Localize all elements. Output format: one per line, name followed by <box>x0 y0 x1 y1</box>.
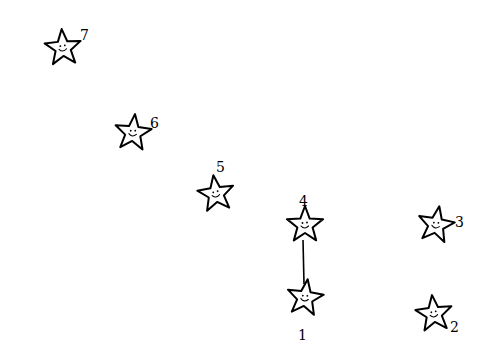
star-dots: 1234567 <box>44 27 464 343</box>
dot-star-4[interactable]: 4 <box>287 193 323 240</box>
smiling-star-icon <box>414 293 454 331</box>
smiling-star-icon <box>416 203 458 243</box>
puzzle-canvas[interactable]: 1234567 <box>0 0 498 359</box>
dot-star-3[interactable]: 3 <box>416 203 464 243</box>
smiling-star-icon <box>44 28 82 65</box>
dot-number-label: 1 <box>298 327 307 343</box>
drawn-lines <box>303 240 304 284</box>
dot-number-label: 4 <box>299 193 308 209</box>
dot-number-label: 6 <box>150 115 159 131</box>
smiling-star-icon <box>113 112 153 150</box>
connecting-line-4-1 <box>303 240 304 284</box>
dot-star-6[interactable]: 6 <box>113 112 159 150</box>
dot-number-label: 2 <box>450 319 459 335</box>
smiling-star-icon <box>287 206 323 240</box>
dot-star-1[interactable]: 1 <box>285 277 326 343</box>
dot-star-5[interactable]: 5 <box>195 159 236 212</box>
smiling-star-icon <box>285 277 326 316</box>
dot-star-2[interactable]: 2 <box>414 293 459 335</box>
dot-number-label: 5 <box>216 159 225 175</box>
dot-star-7[interactable]: 7 <box>44 27 89 65</box>
dot-number-label: 3 <box>455 214 464 230</box>
smiling-star-icon <box>195 173 236 212</box>
dot-number-label: 7 <box>80 27 89 43</box>
